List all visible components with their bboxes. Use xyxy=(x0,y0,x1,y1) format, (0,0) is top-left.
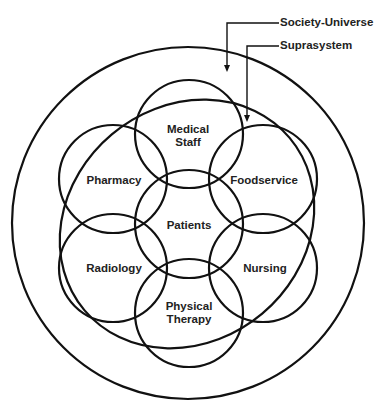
radiology-label: Radiology xyxy=(86,262,142,275)
physical-therapy-label: Physical Therapy xyxy=(166,300,213,326)
foodservice-label: Foodservice xyxy=(230,174,298,187)
nursing-line1: Nursing xyxy=(243,262,286,275)
patients-label: Patients xyxy=(167,219,212,232)
medical-staff-line2: Staff xyxy=(167,136,209,149)
suprasystem-leader xyxy=(247,46,279,116)
physical-therapy-line2: Therapy xyxy=(166,313,213,326)
physical-therapy-line1: Physical xyxy=(166,300,213,313)
suprasystem-label: Suprasystem xyxy=(280,39,352,52)
system-diagram xyxy=(0,0,381,414)
pharmacy-label: Pharmacy xyxy=(87,174,142,187)
society-universe-arrow-icon xyxy=(224,65,230,72)
radiology-line1: Radiology xyxy=(86,262,142,275)
foodservice-line1: Foodservice xyxy=(230,174,298,187)
pharmacy-line1: Pharmacy xyxy=(87,174,142,187)
society-universe-label: Society-Universe xyxy=(280,16,373,29)
nursing-label: Nursing xyxy=(243,262,286,275)
patients-line1: Patients xyxy=(167,219,212,232)
medical-staff-line1: Medical xyxy=(167,123,209,136)
suprasystem-arrow-icon xyxy=(244,115,250,122)
medical-staff-label: Medical Staff xyxy=(167,123,209,149)
